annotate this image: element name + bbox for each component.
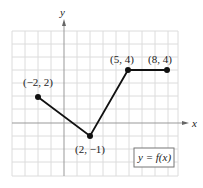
point-1 — [35, 94, 41, 100]
point-label-2: (2, −1) — [75, 143, 105, 156]
point-label-4: (8, 4) — [148, 53, 172, 66]
point-label-1: (−2, 2) — [23, 76, 53, 89]
point-4 — [164, 67, 170, 73]
function-graph: y x (−2, 2) (2, −1) (5, 4) (8, 4) y = f(… — [0, 0, 203, 188]
point-label-3: (5, 4) — [110, 53, 134, 66]
point-2 — [87, 133, 93, 139]
y-axis-arrow-icon — [62, 19, 66, 26]
x-axis-arrow-icon — [182, 121, 189, 125]
legend-label: y = f(x) — [137, 151, 171, 164]
point-3 — [125, 67, 131, 73]
x-axis-label: x — [191, 117, 197, 129]
y-axis-label: y — [59, 6, 65, 18]
